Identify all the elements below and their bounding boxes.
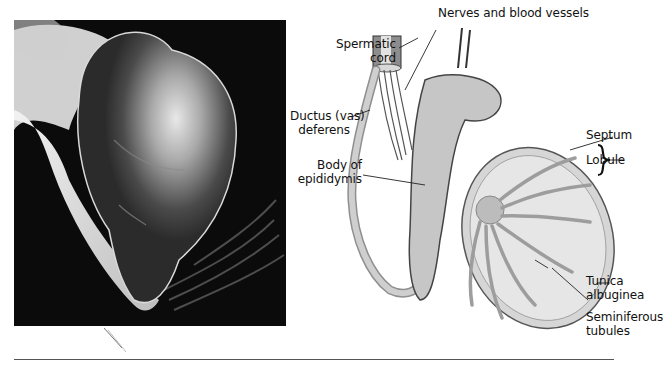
testis-diagram: Nerves and blood vessels Spermatic cord …: [290, 0, 631, 340]
label-seminiferous-line2: tubules: [586, 324, 663, 338]
bottom-divider-rule: [14, 359, 614, 360]
label-nerves-blood-vessels: Nerves and blood vessels: [438, 6, 589, 20]
label-septum: Septum: [586, 128, 632, 142]
label-body-of-epididymis: Body of epididymis: [290, 158, 362, 186]
label-seminiferous-line1: Seminiferous: [586, 310, 663, 324]
label-body-epididymis-line2: epididymis: [290, 172, 362, 186]
label-body-epididymis-line1: Body of: [290, 158, 362, 172]
label-ductus-deferens: Ductus (vas) deferens: [290, 109, 350, 137]
testis-photograph: [14, 20, 286, 326]
label-lobule: Lobule: [586, 153, 625, 167]
label-seminiferous-tubules: Seminiferous tubules: [586, 310, 663, 338]
label-ductus-line2: deferens: [290, 123, 350, 137]
label-ductus-line1: Ductus (vas): [290, 109, 350, 123]
photo-rendering: [14, 20, 286, 326]
label-tunica-line2: albuginea: [586, 288, 644, 302]
label-spermatic-cord-line2: cord: [306, 51, 396, 65]
label-spermatic-cord: Spermatic cord: [306, 37, 396, 65]
label-spermatic-cord-line1: Spermatic: [306, 37, 396, 51]
label-tunica-line1: Tunica: [586, 274, 644, 288]
scratch-mark: [102, 326, 142, 356]
label-tunica-albuginea: Tunica albuginea: [586, 274, 644, 302]
